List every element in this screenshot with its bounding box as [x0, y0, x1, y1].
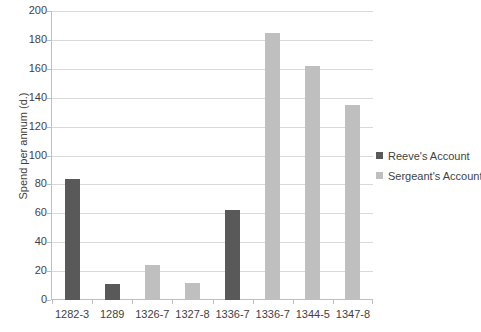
plot-area	[52, 11, 373, 300]
legend-entry[interactable]: Sergeant's Account	[376, 167, 480, 184]
y-axis-tick-label: 180	[3, 34, 47, 45]
legend-swatch-icon	[376, 172, 383, 179]
x-axis-tick-mark	[333, 300, 334, 304]
legend-swatch-icon	[376, 152, 383, 159]
bar[interactable]	[345, 105, 360, 300]
gridline	[52, 98, 373, 99]
x-axis-tick-label: 1326-7	[132, 307, 172, 321]
y-axis-tick-label: 0	[3, 294, 47, 305]
x-axis-tick-label: 1289	[92, 307, 132, 321]
gridline	[52, 242, 373, 243]
gridline	[52, 156, 373, 157]
y-axis-tick-label: 100	[3, 150, 47, 161]
legend-entry[interactable]: Reeve's Account	[376, 147, 480, 164]
gridline	[52, 184, 373, 185]
y-axis-tick-label: 20	[3, 265, 47, 276]
x-axis-tick-mark	[52, 300, 53, 304]
x-axis-tick-mark	[92, 300, 93, 304]
x-axis-tick-mark	[253, 300, 254, 304]
x-axis-tick-label: 1282-3	[52, 307, 92, 321]
y-axis-tick-label: 80	[3, 178, 47, 189]
x-axis-tick-marks	[52, 300, 373, 306]
gridline	[52, 271, 373, 272]
legend-label: Reeve's Account	[388, 150, 470, 162]
x-axis-tick-label: 1336-7	[253, 307, 293, 321]
y-axis-tick-label: 200	[3, 5, 47, 16]
x-axis-tick-label: 1344-5	[293, 307, 333, 321]
x-axis-tick-mark	[132, 300, 133, 304]
gridline	[52, 69, 373, 70]
bar[interactable]	[305, 66, 320, 300]
bar[interactable]	[185, 283, 200, 300]
y-axis-tick-label: 160	[3, 63, 47, 74]
bar[interactable]	[225, 210, 240, 300]
bar[interactable]	[265, 33, 280, 300]
y-axis-tick-label: 120	[3, 121, 47, 132]
gridline	[52, 11, 373, 12]
bar[interactable]	[145, 265, 160, 300]
x-axis-tick-mark	[372, 300, 373, 304]
legend-label: Sergeant's Account	[388, 170, 481, 182]
gridline	[52, 213, 373, 214]
x-axis-tick-labels: 1282-312891326-71327-81336-71336-71344-5…	[52, 307, 373, 323]
y-axis-tick-labels: 020406080100120140160180200	[0, 11, 47, 300]
y-axis-tick-label: 140	[3, 92, 47, 103]
x-axis-tick-label: 1327-8	[172, 307, 212, 321]
legend: Reeve's AccountSergeant's Account	[376, 147, 480, 187]
x-axis-tick-mark	[172, 300, 173, 304]
y-axis-tick-label: 60	[3, 207, 47, 218]
y-axis-tick-mark	[47, 300, 51, 301]
x-axis-tick-mark	[293, 300, 294, 304]
y-axis-tick-label: 40	[3, 236, 47, 247]
bar[interactable]	[65, 179, 80, 300]
x-axis-tick-mark	[213, 300, 214, 304]
bar[interactable]	[105, 284, 120, 300]
x-axis-tick-label: 1347-8	[333, 307, 373, 321]
bar-chart: Spend per annum (d.) 0204060801001201401…	[0, 0, 481, 332]
gridline	[52, 40, 373, 41]
x-axis-tick-label: 1336-7	[213, 307, 253, 321]
gridline	[52, 127, 373, 128]
